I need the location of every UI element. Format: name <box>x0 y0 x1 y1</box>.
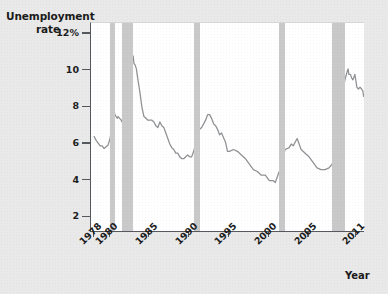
y-axis-tick <box>82 69 90 70</box>
plot-inner <box>91 23 364 232</box>
y-axis-tick <box>82 142 90 143</box>
chart-root: Unemployment rate 12%108642 197819801985… <box>0 0 388 294</box>
y-axis-tick <box>82 216 90 217</box>
unemployment-rate-line <box>94 56 363 183</box>
y-axis-tick-label: 4 <box>52 174 79 185</box>
y-axis-tick-label: 6 <box>52 137 79 148</box>
y-axis-tick <box>82 179 90 180</box>
plot-area <box>90 22 364 232</box>
recession-band <box>332 23 345 232</box>
chart-title-line1: Unemployment <box>6 10 95 22</box>
recession-band <box>279 23 284 232</box>
y-axis-tick-label: 12% <box>52 27 79 38</box>
y-axis-tick-label: 2 <box>52 210 79 221</box>
y-axis-tick-label: 10 <box>52 64 79 75</box>
y-axis-tick-label: 8 <box>52 100 79 111</box>
x-axis-title: Year <box>345 270 370 281</box>
recession-band <box>110 23 115 232</box>
y-axis-tick <box>82 106 90 107</box>
recession-band <box>122 23 133 232</box>
y-axis-tick <box>82 32 90 33</box>
recession-band <box>194 23 200 232</box>
